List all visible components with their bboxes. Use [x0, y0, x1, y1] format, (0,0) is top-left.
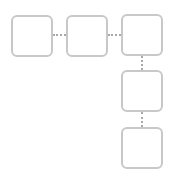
node-3[interactable] — [121, 14, 163, 56]
node-1[interactable] — [11, 15, 53, 57]
edge-1-2 — [53, 34, 66, 36]
node-4[interactable] — [121, 70, 163, 112]
node-2[interactable] — [66, 15, 108, 57]
node-5[interactable] — [121, 127, 163, 169]
edge-3-4 — [141, 56, 143, 70]
edge-2-3 — [108, 34, 121, 36]
edge-4-5 — [141, 112, 143, 127]
